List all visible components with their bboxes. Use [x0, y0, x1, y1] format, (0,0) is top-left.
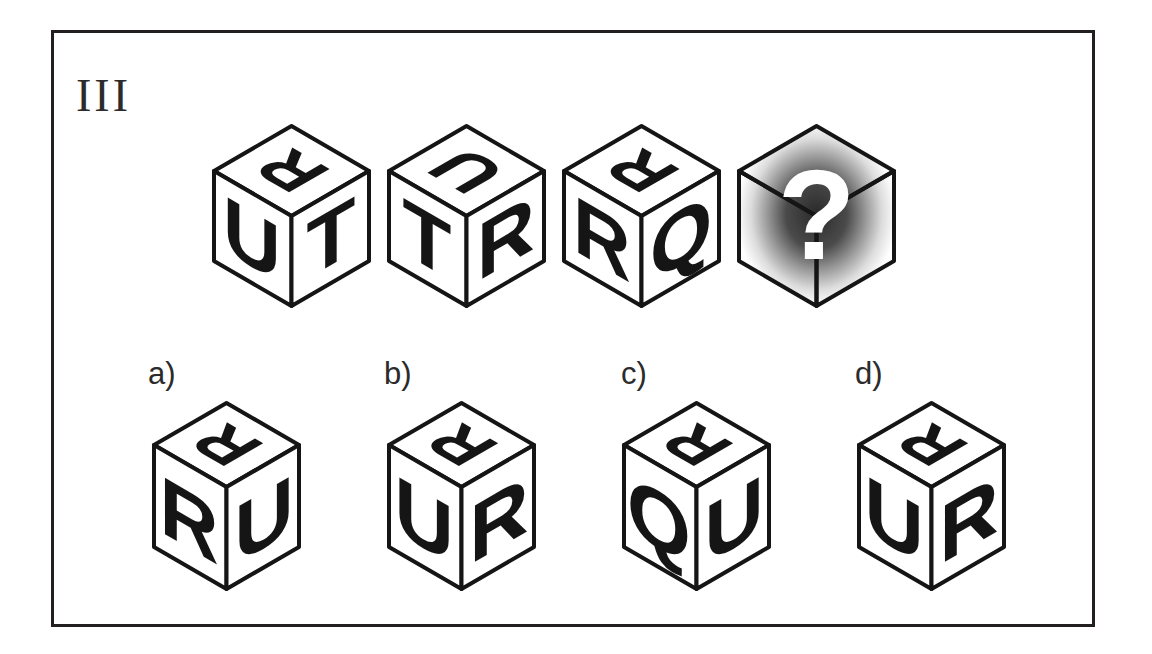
cube-1-svg: R U T — [204, 118, 379, 318]
cube-2-svg: U T R — [379, 118, 554, 318]
option-cube-d[interactable]: R U R — [844, 395, 1019, 600]
option-a-svg[interactable]: R R U — [139, 395, 314, 600]
cube-4-svg: ? — [729, 118, 904, 318]
option-label-b: b) — [384, 358, 412, 389]
sequence-cube-3: R R Q — [554, 118, 729, 318]
option-d-svg[interactable]: R U R — [844, 395, 1019, 600]
option-b-svg[interactable]: R U R — [374, 395, 549, 600]
sequence-cube-1: R U T — [204, 118, 379, 318]
page-title: III — [76, 73, 131, 119]
puzzle-frame: III R U T — [51, 30, 1095, 627]
option-label-a: a) — [148, 358, 176, 389]
question-mark-icon: ? — [777, 143, 855, 286]
sequence-cube-4-unknown: ? — [729, 118, 904, 318]
option-cube-a[interactable]: R R U — [139, 395, 314, 600]
option-label-c: c) — [621, 358, 647, 389]
option-c-svg[interactable]: R Q U — [609, 395, 784, 600]
option-cube-c[interactable]: R Q U — [609, 395, 784, 600]
sequence-cube-2: U T R — [379, 118, 554, 318]
cube-3-svg: R R Q — [554, 118, 729, 318]
option-cube-b[interactable]: R U R — [374, 395, 549, 600]
option-label-d: d) — [855, 358, 883, 389]
svg-text:?: ? — [777, 143, 855, 286]
